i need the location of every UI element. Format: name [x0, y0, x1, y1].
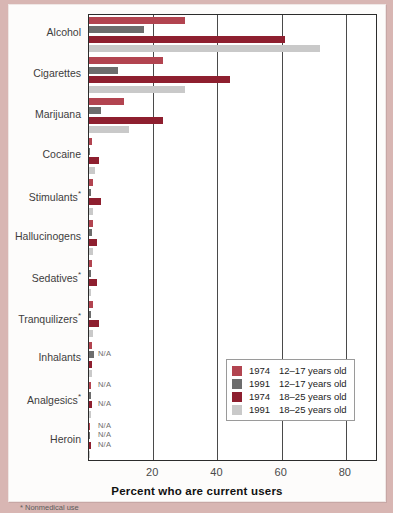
legend-age: 12–17 years old — [279, 365, 347, 376]
bar — [89, 107, 101, 114]
na-label: N/A — [98, 399, 111, 408]
na-label: N/A — [98, 349, 111, 358]
bar — [89, 86, 185, 93]
bar — [89, 76, 230, 83]
bar — [89, 289, 91, 296]
bar — [89, 401, 92, 408]
bar — [89, 442, 91, 449]
bar — [89, 351, 94, 358]
bar — [89, 451, 90, 458]
bar — [89, 157, 99, 164]
bar — [89, 45, 320, 52]
na-label: N/A — [98, 380, 111, 389]
bar — [89, 301, 93, 308]
bar — [89, 370, 92, 377]
bar — [89, 167, 95, 174]
bar — [89, 432, 90, 439]
legend-age: 12–17 years old — [279, 378, 347, 389]
bar — [89, 279, 97, 286]
x-tick-40: 40 — [201, 466, 231, 478]
bar — [89, 57, 163, 64]
legend-swatch — [232, 366, 242, 376]
legend-swatch — [232, 405, 242, 415]
bar — [89, 361, 92, 368]
bar — [89, 423, 90, 430]
x-tick-20: 20 — [137, 466, 167, 478]
bar — [89, 342, 92, 349]
na-label: N/A — [98, 430, 111, 439]
page-background: N/AN/AN/AN/AN/AN/A AlcoholCigarettesMari… — [0, 0, 393, 513]
x-tick-80: 80 — [330, 466, 360, 478]
bar — [89, 17, 185, 24]
legend-age: 18–25 years old — [279, 404, 347, 415]
legend-swatch — [232, 392, 242, 402]
category-label-heroin: Heroin — [50, 433, 81, 445]
legend-year: 1991 — [249, 404, 279, 415]
bar — [89, 26, 144, 33]
category-label-marijuana: Marijuana — [35, 108, 81, 120]
bar — [89, 320, 99, 327]
legend-swatch — [232, 379, 242, 389]
na-label: N/A — [98, 421, 111, 430]
legend-age: 18–25 years old — [279, 391, 347, 402]
bar — [89, 220, 93, 227]
bar — [89, 229, 92, 236]
x-axis-title: Percent who are current users — [8, 485, 386, 497]
legend-year: 1974 — [249, 365, 279, 376]
na-label: N/A — [98, 440, 111, 449]
legend-year: 1974 — [249, 391, 279, 402]
bar — [89, 411, 91, 418]
bar — [89, 208, 93, 215]
legend-item: 197412–17 years old — [232, 364, 347, 377]
bar — [89, 198, 101, 205]
category-label-sedatives-: Sedatives* — [32, 270, 81, 284]
bar — [89, 117, 163, 124]
bar — [89, 36, 285, 43]
bar — [89, 148, 90, 155]
bar — [89, 270, 91, 277]
legend-item: 197418–25 years old — [232, 390, 347, 403]
legend-year: 1991 — [249, 378, 279, 389]
bar — [89, 382, 91, 389]
bar — [89, 179, 93, 186]
chart-card: N/AN/AN/AN/AN/AN/A AlcoholCigarettesMari… — [8, 4, 386, 502]
bar — [89, 311, 91, 318]
bar — [89, 67, 118, 74]
category-label-hallucinogens: Hallucinogens — [15, 230, 81, 242]
category-label-alcohol: Alcohol — [47, 26, 81, 38]
bar — [89, 98, 124, 105]
footnote: * Nonmedical use — [20, 503, 79, 512]
category-label-stimulants-: Stimulants* — [29, 189, 81, 203]
legend-item: 199112–17 years old — [232, 377, 347, 390]
legend-item: 199118–25 years old — [232, 403, 347, 416]
legend: 197412–17 years old199112–17 years old19… — [226, 359, 355, 421]
category-label-cocaine: Cocaine — [42, 148, 81, 160]
x-tick-60: 60 — [266, 466, 296, 478]
category-label-tranquilizers-: Tranquilizers* — [18, 311, 81, 325]
bar — [89, 138, 92, 145]
category-label-cigarettes: Cigarettes — [33, 67, 81, 79]
bar — [89, 239, 97, 246]
bar — [89, 189, 91, 196]
category-label-inhalants: Inhalants — [38, 351, 81, 363]
category-label-analgesics-: Analgesics* — [27, 392, 81, 406]
bar — [89, 260, 92, 267]
bar — [89, 392, 91, 399]
bar — [89, 126, 129, 133]
bar — [89, 330, 93, 337]
bar — [89, 248, 93, 255]
